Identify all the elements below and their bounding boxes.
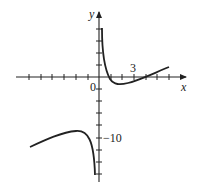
origin-label: 0 — [90, 80, 96, 94]
curve-left-branch — [30, 131, 95, 175]
function-graph: y x 0 3 −10 — [0, 0, 199, 190]
x-axis-label: x — [180, 80, 187, 94]
y-tick-label-neg10: −10 — [103, 131, 122, 145]
y-axis-label: y — [88, 7, 95, 21]
x-tick-label-3: 3 — [130, 61, 136, 75]
